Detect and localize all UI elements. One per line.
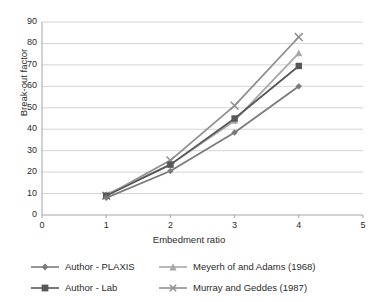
- y-tick-label: 70: [11, 59, 37, 69]
- y-tick-label: 80: [11, 37, 37, 47]
- x-tick-label: 1: [99, 220, 113, 230]
- legend-key-square-icon: [30, 282, 60, 294]
- series-x: [102, 33, 302, 199]
- legend-label-meyerhof-adams: Meyerh of and Adams (1968): [193, 261, 316, 272]
- series-triangle: [103, 49, 303, 197]
- legend-item-meyerhof-adams[interactable]: Meyerh of and Adams (1968): [158, 256, 348, 277]
- x-tick-label: 0: [35, 220, 49, 230]
- y-tick-label: 20: [11, 166, 37, 176]
- x-tick-label: 5: [356, 220, 370, 230]
- legend-label-murray-geddes: Murray and Geddes (1987): [193, 282, 307, 293]
- x-axis-title: Embedment ratio: [0, 234, 378, 245]
- y-tick-label: 60: [11, 80, 37, 90]
- x-tick-label: 3: [228, 220, 242, 230]
- y-tick-label: 10: [11, 188, 37, 198]
- legend-item-author-lab[interactable]: Author - Lab: [30, 277, 158, 298]
- x-tick-label: 4: [292, 220, 306, 230]
- y-tick-label: 90: [11, 16, 37, 26]
- plot-area: [0, 0, 378, 250]
- legend-key-x-icon: [158, 282, 188, 294]
- legend-key-diamond-icon: [30, 261, 60, 273]
- legend-item-murray-geddes[interactable]: Murray and Geddes (1987): [158, 277, 348, 298]
- series-layer: [102, 33, 302, 201]
- y-tick-label: 30: [11, 145, 37, 155]
- series-square: [103, 63, 302, 199]
- legend-label-author-plaxis: Author - PLAXIS: [65, 261, 135, 272]
- y-tick-label: 40: [11, 123, 37, 133]
- chart-legend: Author - PLAXIS Meyerh of and Adams (196…: [0, 256, 378, 298]
- legend-item-author-plaxis[interactable]: Author - PLAXIS: [30, 256, 158, 277]
- chart-figure: Break-out factor 0102030405060708090 012…: [0, 0, 378, 302]
- legend-key-triangle-icon: [158, 261, 188, 273]
- x-tick-label: 2: [163, 220, 177, 230]
- y-tick-label: 0: [11, 209, 37, 219]
- grid-lines: [42, 22, 363, 194]
- axis-lines: [42, 22, 363, 218]
- legend-label-author-lab: Author - Lab: [65, 282, 117, 293]
- y-tick-label: 50: [11, 102, 37, 112]
